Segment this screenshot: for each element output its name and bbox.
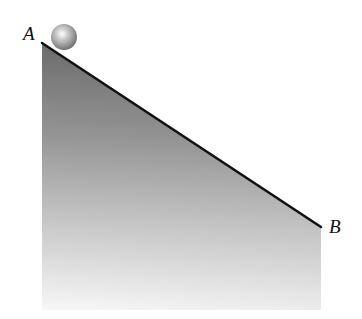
- point-b-label: B: [329, 216, 341, 237]
- point-a-label: A: [21, 23, 35, 44]
- ball: [51, 24, 77, 50]
- incline-diagram: A B: [0, 0, 362, 319]
- incline-body-tint: [42, 43, 321, 310]
